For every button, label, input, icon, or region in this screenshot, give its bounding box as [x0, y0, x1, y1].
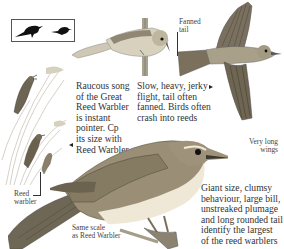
fanned-tail-label: Fanned tail [179, 18, 201, 34]
small-warbler-silhouette-icon [51, 27, 72, 35]
large-warbler-silhouette-icon [12, 20, 74, 41]
long-wings-label: Very long wings [248, 138, 278, 154]
silhouette-box [11, 19, 75, 42]
same-scale-label: Same scale as Reed Warbler [72, 224, 121, 240]
flight-caption: Slow, heavy, jerky flight, tail often fa… [137, 81, 211, 123]
fanned-tail-leader-line [177, 32, 178, 56]
identification-caption: Giant size, clumsy behaviour, large bill… [201, 183, 283, 247]
perched-warbler-illustration [70, 0, 170, 78]
right-pointer-arrow-icon [209, 85, 213, 89]
